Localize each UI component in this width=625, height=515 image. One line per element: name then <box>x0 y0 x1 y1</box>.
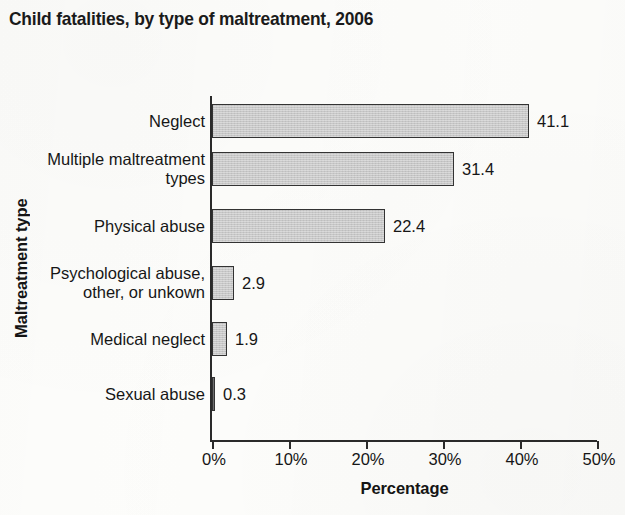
bar <box>212 209 385 243</box>
x-axis-tick <box>597 441 599 449</box>
x-axis-tick <box>520 441 522 449</box>
y-axis-tick-labels: Neglect Multiple maltreatment types Phys… <box>0 96 205 440</box>
bar-value-label: 2.9 <box>242 274 265 293</box>
bar <box>212 104 529 138</box>
x-axis-tick-label: 50% <box>582 450 615 469</box>
bar-value-label: 22.4 <box>393 217 425 236</box>
y-axis-tick-label: Physical abuse <box>94 217 205 236</box>
y-axis-tick-label: Psychological abuse, other, or unkown <box>50 264 205 302</box>
y-axis-tick-label: Medical neglect <box>90 330 205 349</box>
bar-value-label: 41.1 <box>537 112 569 131</box>
x-axis-tick-label: 10% <box>274 450 307 469</box>
x-axis-tick-label: 40% <box>505 450 538 469</box>
y-axis-tick-label: Neglect <box>149 112 205 131</box>
x-axis-title: Percentage <box>212 479 597 498</box>
bar <box>212 322 227 356</box>
x-axis-tick-label: 0% <box>202 450 226 469</box>
bar-value-label: 31.4 <box>462 160 494 179</box>
y-axis-tick-label: Sexual abuse <box>105 385 205 404</box>
x-axis-tick-label: 20% <box>351 450 384 469</box>
x-axis-tick-labels: 0% 10% 20% 30% 40% 50% <box>0 450 625 472</box>
x-axis-tick <box>212 441 214 449</box>
chart-title: Child fatalities, by type of maltreatmen… <box>9 8 373 30</box>
plot-area: 41.1 31.4 22.4 2.9 1.9 0.3 <box>212 96 597 440</box>
bar <box>212 266 234 300</box>
x-axis-tick <box>443 441 445 449</box>
chart-figure: Child fatalities, by type of maltreatmen… <box>0 0 625 515</box>
bar-value-label: 1.9 <box>235 330 258 349</box>
y-axis-tick-label: Multiple maltreatment types <box>47 150 205 188</box>
bar-value-label: 0.3 <box>223 385 246 404</box>
bar <box>212 377 215 411</box>
x-axis-tick <box>366 441 368 449</box>
x-axis-tick <box>289 441 291 449</box>
x-axis-tick-label: 30% <box>428 450 461 469</box>
bar <box>212 152 454 186</box>
x-axis-ticks <box>212 441 598 449</box>
